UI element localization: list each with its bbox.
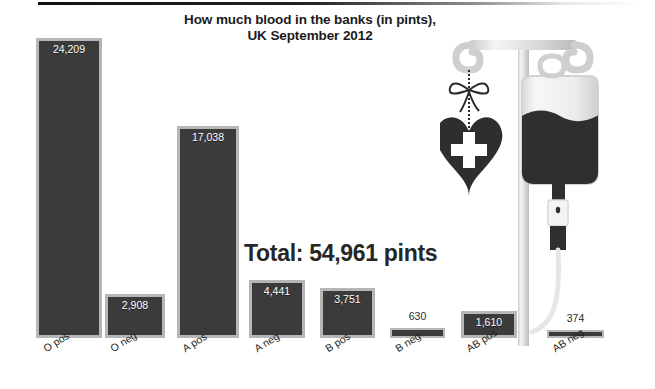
blood-bag-hanger	[540, 56, 564, 76]
iv-tube	[532, 250, 559, 332]
bar-value-a-neg: 4,441	[252, 285, 302, 297]
bar-value-o-neg: 2,908	[108, 299, 162, 311]
bag-outlet	[552, 184, 565, 200]
bar-o-pos: 24,209	[36, 38, 102, 338]
ribbon-tail-left	[460, 92, 469, 112]
ribbon-tail-right	[469, 92, 479, 111]
bar-a-neg: 4,441	[249, 280, 305, 338]
bar-o-neg: 2,908	[105, 294, 165, 338]
total-label: Total: 54,961 pints	[244, 240, 437, 267]
cross-icon-horizontal	[451, 144, 487, 156]
infographic-canvas: How much blood in the banks (in pints), …	[0, 0, 655, 389]
drip-drop	[556, 207, 560, 213]
bar-value-b-neg: 630	[390, 310, 445, 322]
bar-value-o-pos: 24,209	[39, 43, 99, 55]
tube-blood-segment	[550, 226, 566, 250]
ribbon-bow-right	[469, 83, 488, 93]
bar-a-pos: 17,038	[177, 126, 239, 338]
bar-b-pos: 3,751	[320, 288, 375, 338]
iv-illustration	[440, 18, 655, 348]
bar-value-a-pos: 17,038	[180, 131, 236, 143]
ribbon-bow-left	[450, 83, 469, 93]
bar-value-b-pos: 3,751	[323, 293, 372, 305]
iv-crossbar	[468, 40, 578, 50]
